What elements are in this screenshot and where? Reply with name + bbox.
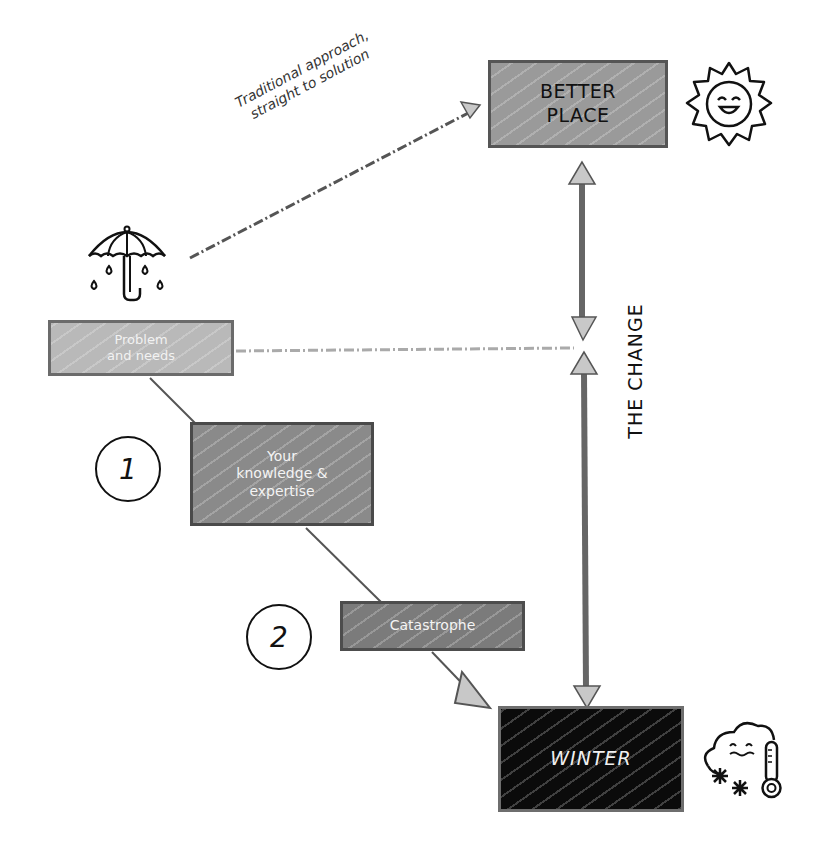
catastrophe-node: Catastrophe — [340, 601, 525, 651]
step-1-badge: 1 — [95, 436, 161, 502]
knowledge-to-catastrophe-line — [306, 528, 382, 603]
problem-line2: and needs — [107, 348, 175, 364]
step-2-number: 2 — [270, 621, 288, 654]
change-arrowhead-bottom — [574, 686, 600, 708]
better-place-node: BETTER PLACE — [488, 60, 668, 148]
knowledge-line3: expertise — [236, 483, 327, 501]
better-place-line2: PLACE — [540, 104, 616, 128]
the-change-label: THE CHANGE — [624, 303, 646, 438]
knowledge-line2: knowledge & — [236, 465, 327, 483]
diagram-canvas: BETTER PLACE Traditional approach, strai… — [0, 0, 825, 851]
change-arrowhead-top — [569, 162, 595, 184]
step-2-badge: 2 — [246, 604, 312, 670]
winter-label: WINTER — [550, 747, 631, 771]
problem-node: Problem and needs — [48, 320, 234, 376]
problem-to-change-line — [236, 348, 574, 351]
better-place-line1: BETTER — [540, 80, 616, 104]
knowledge-node: Your knowledge & expertise — [190, 422, 374, 526]
step-1-number: 1 — [119, 453, 137, 486]
knowledge-line1: Your — [236, 448, 327, 466]
change-arrowhead-mid-up — [571, 352, 597, 374]
catastrophe-arrowhead — [455, 672, 490, 708]
problem-to-knowledge-line — [150, 378, 196, 424]
smiling-sun-icon — [684, 60, 774, 150]
change-arrowhead-mid-down — [572, 317, 596, 340]
winter-node: WINTER — [498, 706, 684, 812]
umbrella-rain-icon — [82, 218, 172, 308]
catastrophe-label: Catastrophe — [390, 617, 476, 635]
problem-line1: Problem — [107, 332, 175, 348]
change-lower-shaft — [584, 372, 586, 688]
cold-cloud-thermometer-icon — [698, 716, 793, 806]
